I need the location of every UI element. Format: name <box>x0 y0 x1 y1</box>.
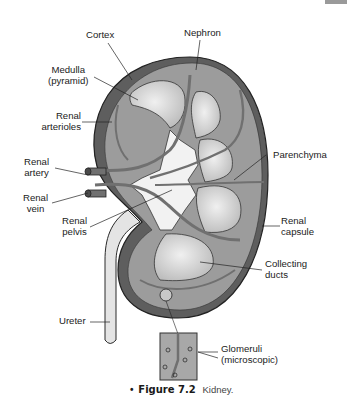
glomerulus-marker <box>160 289 172 301</box>
label-renal-artery: Renal artery <box>24 157 49 178</box>
figure-title: Kidney. <box>203 384 234 395</box>
label-medulla: Medulla (pyramid) <box>48 65 89 86</box>
label-nephron: Nephron <box>184 28 221 39</box>
label-renal-pelvis: Renal pelvis <box>62 216 87 237</box>
figure-number: Figure 7.2 <box>138 384 195 395</box>
caption-bullet: • <box>130 384 134 395</box>
label-collecting-ducts: Collecting ducts <box>265 259 307 280</box>
kidney-diagram <box>0 0 347 414</box>
label-ureter: Ureter <box>59 316 86 327</box>
figure-caption: • Figure 7.2 Kidney. <box>130 384 234 395</box>
label-cortex: Cortex <box>86 30 114 41</box>
label-renal-capsule: Renal capsule <box>281 216 314 237</box>
renal-artery-vein-stubs <box>85 168 106 197</box>
label-glomeruli: Glomeruli (microscopic) <box>221 344 278 365</box>
label-parenchyma: Parenchyma <box>273 150 327 161</box>
label-renal-arterioles: Renal arterioles <box>36 111 81 132</box>
label-renal-vein: Renal vein <box>23 193 48 214</box>
